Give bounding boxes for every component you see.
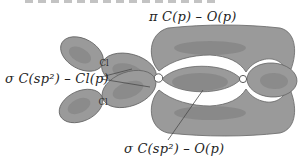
atom-label-cl-top: Cl (99, 58, 109, 68)
pi-bottom-lobe-shade (174, 106, 246, 120)
oxygen-nucleus-dot (239, 75, 246, 82)
carbon-nucleus-dot (154, 74, 162, 82)
label-sigma-ccl: σ C(sp²) – Cl(p) (5, 72, 109, 85)
label-pi-co: π C(p) – O(p) (149, 10, 237, 23)
label-sigma-co: σ C(sp²) – O(p) (124, 142, 224, 155)
atom-label-cl-bottom: Cl (98, 97, 108, 107)
sigma-co-lens-shade (172, 73, 228, 91)
pi-top-lobe-shade (174, 41, 246, 55)
molecular-orbital-figure: Cl Cl π C(p) – O(p) σ C(sp²) – Cl(p) σ C… (0, 0, 301, 165)
